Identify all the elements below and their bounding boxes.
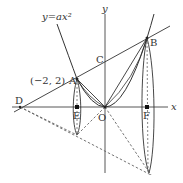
segment-ao <box>77 79 105 107</box>
origin-label: O <box>98 112 106 123</box>
point-a-label: A <box>68 75 77 86</box>
point-e-label: E <box>73 110 80 121</box>
point-a-coord-label: (−2, 2) <box>30 75 65 86</box>
point-d <box>19 106 21 108</box>
point-c-label: C <box>96 54 104 65</box>
point-e <box>75 105 79 109</box>
point-b <box>146 37 149 40</box>
curve-label: y=ax² <box>41 11 72 22</box>
segment-bo <box>105 38 147 107</box>
x-axis-label: x <box>171 101 177 112</box>
geometry-figure: y=ax² y x O (−2, 2) A B C D E F <box>0 0 183 183</box>
point-o <box>104 106 107 109</box>
parabola-curve <box>57 14 154 107</box>
dashed-d-ftip <box>20 107 151 175</box>
y-axis-label: y <box>101 3 108 14</box>
point-b-label: B <box>150 37 157 48</box>
point-f-label: F <box>143 110 150 121</box>
point-d-label: D <box>15 95 23 106</box>
point-f <box>145 105 149 109</box>
